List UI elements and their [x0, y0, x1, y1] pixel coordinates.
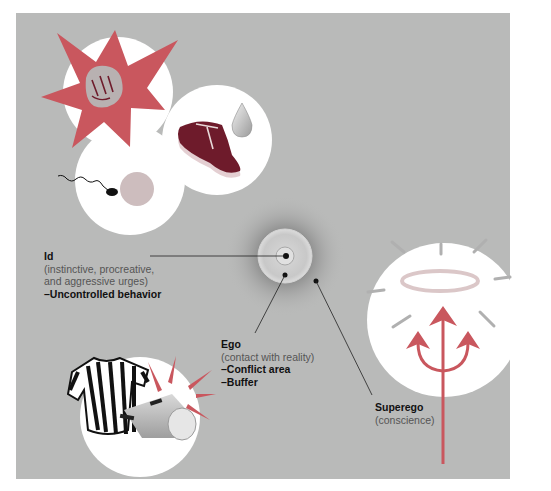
ego-point-1: –Conflict area [221, 363, 314, 376]
id-title: Id [44, 250, 161, 263]
ego-description: (contact with reality) [221, 351, 314, 364]
superego-title: Superego [375, 401, 435, 414]
superego-illustration [367, 240, 521, 464]
fist-icon [86, 66, 123, 108]
superego-leader-line [316, 281, 372, 395]
superego-label: Superego (conscience) [375, 401, 435, 426]
id-description-2: and aggressive urges) [44, 275, 161, 288]
diagram-artwork [0, 0, 551, 491]
id-description-1: (instinctive, procreative, [44, 263, 161, 276]
id-point: –Uncontrolled behavior [44, 288, 161, 301]
ego-illustration [68, 356, 216, 477]
id-label: Id (instinctive, procreative, and aggres… [44, 250, 161, 300]
ego-label: Ego (contact with reality) –Conflict are… [221, 338, 314, 388]
id-illustration [41, 30, 272, 235]
ego-point-2: –Buffer [221, 376, 314, 389]
ego-title: Ego [221, 338, 314, 351]
superego-description: (conscience) [375, 414, 435, 427]
